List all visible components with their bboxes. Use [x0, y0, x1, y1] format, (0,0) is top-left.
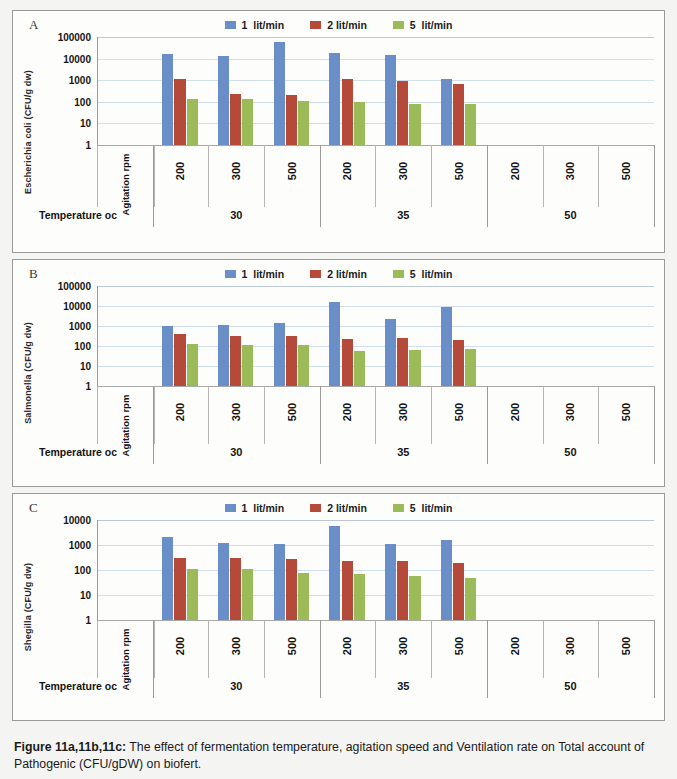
bar	[218, 543, 229, 620]
bar	[274, 323, 285, 386]
legend-a: 1 lit/min2 lit/min5 lit/min	[13, 19, 664, 31]
category-cell: 500	[598, 620, 655, 678]
legend-label: 5 lit/min	[410, 19, 453, 31]
temperature-group-label: 30	[230, 209, 242, 221]
category-cell: 500	[264, 620, 321, 678]
category-cell: 300	[208, 145, 265, 207]
legend-label: 2 lit/min	[327, 19, 367, 31]
bar-group	[208, 37, 264, 145]
group-separator	[153, 620, 154, 698]
group-separator	[320, 145, 321, 227]
y-axis-tick-label: 1	[85, 381, 91, 392]
bar-group	[376, 286, 432, 386]
bar-group	[598, 37, 654, 145]
category-cell: 200	[320, 145, 377, 207]
category-tick-label: 500	[286, 162, 298, 180]
y-axis-tick-label: 1000	[69, 75, 91, 86]
group-separator	[487, 620, 488, 698]
y-axis-tick-label: 10	[80, 590, 91, 601]
category-cell: 200	[153, 620, 210, 678]
legend-swatch-icon	[225, 504, 236, 512]
category-tick-label: 500	[620, 162, 632, 180]
legend-label: 1 lit/min	[242, 268, 285, 280]
bar	[218, 325, 229, 386]
chart-panel-c: C 1 lit/min2 lit/min5 lit/min Shegilla (…	[12, 493, 665, 721]
bar	[441, 79, 452, 146]
bar	[162, 54, 173, 145]
axis-label-temperature: Temperature oc	[39, 209, 117, 221]
axis-label-temperature: Temperature oc	[39, 446, 117, 458]
group-separator	[153, 145, 154, 227]
bar	[274, 42, 285, 145]
axis-label-cell-agitation: Agitation rpm	[97, 386, 155, 444]
category-cell: 200	[153, 386, 210, 444]
y-axis-tick-labels: 110100100010000100000	[39, 286, 95, 386]
y-axis-tick-label: 100	[74, 96, 91, 107]
bar-group	[543, 37, 599, 145]
bar-group	[376, 520, 432, 620]
bar	[286, 336, 297, 386]
category-tick-label: 300	[397, 637, 409, 655]
y-axis-tick-label: 100	[74, 341, 91, 352]
legend-item-3: 5 lit/min	[393, 502, 453, 514]
temperature-axis: Temperature oc303550	[39, 680, 654, 698]
legend-swatch-icon	[225, 21, 236, 29]
group-separator	[654, 620, 655, 698]
bar-group	[376, 37, 432, 145]
bar	[385, 544, 396, 620]
legend-swatch-icon	[310, 504, 321, 512]
category-cell: 200	[487, 386, 544, 444]
bar-group	[153, 520, 209, 620]
category-cell: 500	[431, 145, 488, 207]
category-tick-label: 200	[509, 403, 521, 421]
bar	[385, 55, 396, 145]
y-axis-tick-label: 10	[80, 118, 91, 129]
category-axis: Agitation rpm200300500200300500200300500	[97, 386, 654, 444]
category-cell: 300	[376, 620, 433, 678]
bar-group	[431, 37, 487, 145]
y-axis-title-b: Salmonella (CFU/g dw)	[17, 260, 39, 486]
category-tick-label: 500	[453, 403, 465, 421]
bar	[342, 79, 353, 145]
bar	[298, 101, 309, 145]
bar-group	[543, 520, 599, 620]
legend-c: 1 lit/min2 lit/min5 lit/min	[13, 502, 664, 514]
bar	[354, 351, 365, 386]
bar-group	[264, 37, 320, 145]
legend-swatch-icon	[225, 270, 236, 278]
bar-group	[543, 286, 599, 386]
axis-label-cell-agitation: Agitation rpm	[97, 620, 155, 678]
bar	[453, 340, 464, 386]
bar	[465, 104, 476, 145]
legend-swatch-icon	[393, 21, 404, 29]
group-separator	[487, 145, 488, 227]
category-cell: 300	[543, 620, 600, 678]
bar	[298, 573, 309, 620]
category-tick-label: 200	[342, 162, 354, 180]
category-tick-label: 200	[509, 637, 521, 655]
y-axis-tick-label: 100	[74, 565, 91, 576]
group-separator	[487, 386, 488, 464]
bar	[218, 56, 229, 145]
chart-panel-b: B 1 lit/min2 lit/min5 lit/min Salmonella…	[12, 259, 665, 487]
legend-label: 1 lit/min	[242, 502, 285, 514]
bar	[174, 558, 185, 620]
bar-group	[431, 286, 487, 386]
y-axis-tick-label: 100000	[58, 281, 91, 292]
bar	[409, 104, 420, 145]
temperature-group-label: 30	[230, 680, 242, 692]
legend-item-3: 5 lit/min	[393, 268, 453, 280]
group-separator	[153, 386, 154, 464]
group-separator	[320, 386, 321, 464]
bar	[230, 558, 241, 620]
legend-label: 2 lit/min	[327, 268, 367, 280]
category-tick-label: 500	[286, 403, 298, 421]
bar-group	[320, 286, 376, 386]
bar-series-container	[97, 37, 654, 145]
y-axis-tick-label: 1	[85, 615, 91, 626]
legend-swatch-icon	[393, 504, 404, 512]
category-cell: 300	[543, 145, 600, 207]
legend-label: 1 lit/min	[242, 19, 285, 31]
bar	[230, 94, 241, 145]
temperature-group-label: 35	[397, 446, 409, 458]
